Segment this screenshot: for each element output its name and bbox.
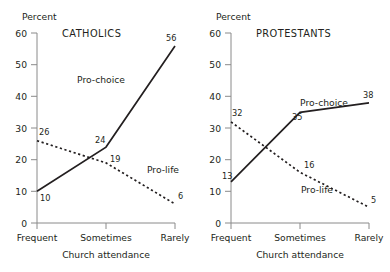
value-label-prochoice-sometimes-left: 24 — [95, 135, 105, 145]
panel-catholics: Percent CATHOLICS 60 50 40 30 20 10 0 — [15, 11, 190, 260]
y-tick-label-10-left: 10 — [15, 186, 27, 197]
value-label-prolife-frequent-left: 26 — [39, 127, 49, 137]
series-label-prolife-left: Pro-life — [147, 164, 179, 175]
panel-protestants: Percent PROTESTANTS 60 50 40 30 20 10 0 … — [209, 11, 384, 260]
value-label-prochoice-sometimes-right: 35 — [292, 112, 302, 122]
value-label-prochoice-frequent-left: 10 — [40, 193, 50, 203]
y-tick-label-0-right: 0 — [215, 218, 221, 229]
x-tick-label-rarely-left: Rarely — [160, 232, 190, 243]
y-tick-label-60-right: 60 — [209, 28, 221, 39]
x-ticks-left — [37, 223, 175, 229]
y-tick-label-20-right: 20 — [209, 154, 221, 165]
y-tick-label-30-right: 30 — [209, 123, 221, 134]
x-tick-label-sometimes-right: Sometimes — [274, 232, 326, 243]
series-label-prochoice-right: Pro-choice — [300, 97, 348, 108]
value-label-prochoice-frequent-right: 13 — [222, 171, 232, 181]
series-label-prolife-right: Pro-life — [301, 184, 333, 195]
x-ticks-right — [231, 223, 369, 229]
value-label-prolife-rarely-left: 6 — [178, 191, 183, 201]
y-tick-label-40-left: 40 — [15, 91, 27, 102]
x-tick-label-frequent-right: Frequent — [211, 232, 252, 243]
y-tick-label-30-left: 30 — [15, 123, 27, 134]
x-tick-label-frequent-left: Frequent — [17, 232, 58, 243]
x-tick-label-sometimes-left: Sometimes — [80, 232, 132, 243]
x-axis-title-right: Church attendance — [256, 249, 344, 260]
y-tick-label-50-right: 50 — [209, 59, 221, 70]
value-label-prolife-sometimes-right: 16 — [304, 160, 314, 170]
y-axis-title-left: Percent — [22, 11, 57, 22]
y-tick-label-60-left: 60 — [15, 28, 27, 39]
value-label-prochoice-rarely-left: 56 — [166, 33, 176, 43]
panel-title-catholics: CATHOLICS — [62, 28, 121, 39]
y-tick-label-20-left: 20 — [15, 154, 27, 165]
chart-figure: Percent CATHOLICS 60 50 40 30 20 10 0 — [0, 0, 390, 272]
y-ticks-left — [31, 33, 37, 223]
x-axis-title-left: Church attendance — [62, 249, 150, 260]
y-tick-label-0-left: 0 — [21, 218, 27, 229]
value-label-prolife-rarely-right: 5 — [371, 195, 376, 205]
y-tick-label-40-right: 40 — [209, 91, 221, 102]
y-tick-label-50-left: 50 — [15, 59, 27, 70]
series-label-prochoice-left: Pro-choice — [77, 74, 125, 85]
x-tick-label-rarely-right: Rarely — [354, 232, 384, 243]
y-ticks-right — [225, 33, 231, 223]
y-axis-title-right: Percent — [216, 11, 251, 22]
value-label-prochoice-rarely-right: 38 — [363, 90, 373, 100]
y-tick-label-10-right: 10 — [209, 186, 221, 197]
panel-title-protestants: PROTESTANTS — [256, 28, 331, 39]
value-label-prolife-frequent-right: 32 — [232, 108, 242, 118]
value-label-prolife-sometimes-left: 19 — [110, 154, 120, 164]
